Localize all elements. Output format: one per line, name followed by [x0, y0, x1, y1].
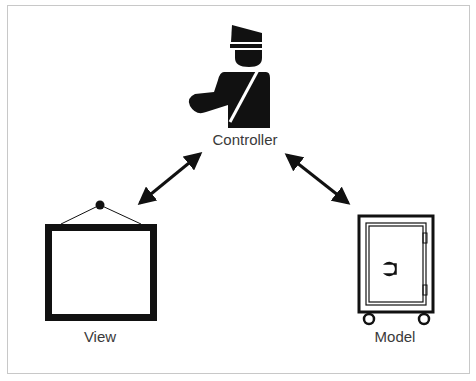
- model-label: Model: [365, 328, 425, 345]
- controller-label: Controller: [205, 131, 285, 148]
- traffic-officer-icon: [189, 25, 270, 128]
- arrow-controller-view: [140, 154, 200, 203]
- mvc-diagram: [0, 0, 476, 381]
- picture-frame-icon: [49, 201, 154, 318]
- safe-icon: [359, 216, 433, 324]
- arrow-controller-model: [287, 155, 348, 203]
- view-label: View: [70, 328, 130, 345]
